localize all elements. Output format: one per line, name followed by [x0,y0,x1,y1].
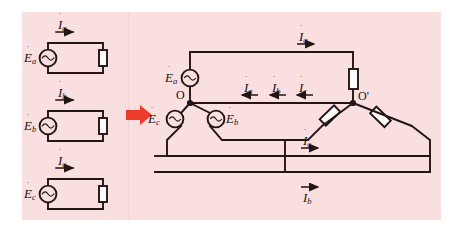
right-circuit-wires [155,52,430,172]
left-circuit-c [40,168,107,209]
current-label-Ic-left: ̇Ic [58,153,66,169]
source-label-Ec-star: ̇Ec [148,111,160,127]
current-label-Ia-top: ̇Ia [299,29,308,45]
left-circuit-a [40,32,107,73]
node-label-O: O [176,88,185,103]
node-O-prime [350,100,356,106]
current-label-Ia-left: ̇Ia [58,17,67,33]
source-label-Ea-star: ̇Ea [165,70,177,86]
figure-canvas: ̇Ea ̇Ia ̇Eb ̇Ib ̇Ec ̇Ic ̇Ea ̇Ec ̇Eb O O'… [0,0,463,232]
resistor-a [349,69,358,89]
current-label-Ib-mid: ̇Ib [272,80,281,96]
right-current-arrows [242,44,318,187]
node-O [187,100,193,106]
current-label-Ic-lower: ̇Ic [303,133,311,149]
node-label-O-prime: O' [358,89,369,104]
current-label-Ia-mid: ̇Ia [244,80,253,96]
current-label-Ib-bottom: ̇Ib [303,190,312,206]
source-label-Ea: ̇Ea [24,50,36,66]
source-label-Eb-star: ̇Eb [226,111,238,127]
source-label-Ec: ̇Ec [24,186,36,202]
current-label-Ib-left: ̇Ib [58,85,67,101]
current-label-Ic-mid: ̇Ic [299,80,307,96]
source-label-Eb: ̇Eb [24,118,36,134]
left-circuit-b [40,100,107,141]
